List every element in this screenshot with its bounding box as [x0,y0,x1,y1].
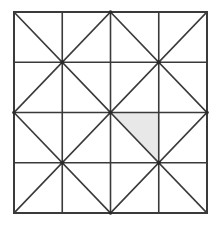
intersection-node [157,60,161,64]
grid-figure-svg: Square divided into 4 by 4 grid with blo… [0,0,221,226]
figure-root: Square divided into 4 by 4 grid with blo… [0,0,221,226]
intersection-node [109,10,113,14]
intersection-node [12,111,16,115]
intersection-node [60,60,64,64]
intersection-node [157,161,161,165]
intersection-node [60,161,64,165]
intersection-node [109,211,113,215]
intersection-node [108,110,112,114]
intersection-node [205,111,209,115]
